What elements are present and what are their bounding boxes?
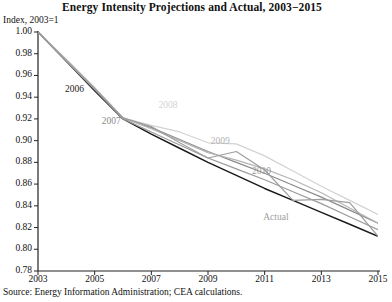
x-tick-label: 2009 (192, 274, 224, 284)
series-label-2010: 2010 (252, 166, 271, 176)
x-tick-label: 2011 (249, 274, 281, 284)
x-tick-label: 2003 (22, 274, 54, 284)
y-tick-label: 1.00 (0, 26, 32, 36)
y-tick-label: 0.88 (0, 156, 32, 166)
series-label-2009: 2009 (211, 136, 230, 146)
series-label-actual: Actual (263, 212, 288, 222)
series-label-2008: 2008 (158, 100, 177, 110)
x-tick-label: 2005 (79, 274, 111, 284)
chart-title: Energy Intensity Projections and Actual,… (0, 0, 384, 14)
y-tick-label: 0.92 (0, 113, 32, 123)
source-note: Source: Energy Information Administratio… (3, 287, 242, 297)
y-axis-label: Index, 2003=1 (3, 15, 59, 25)
x-tick-label: 2013 (305, 274, 337, 284)
series-label-2006: 2006 (65, 84, 84, 94)
y-tick-label: 0.86 (0, 178, 32, 188)
series-line-2007 (38, 32, 378, 223)
series-line-2008 (38, 32, 378, 215)
y-tick-label: 0.80 (0, 243, 32, 253)
y-tick-label: 0.94 (0, 91, 32, 101)
y-tick-label: 0.84 (0, 200, 32, 210)
x-tick-label: 2015 (362, 274, 392, 284)
y-tick-label: 0.98 (0, 48, 32, 58)
series-label-2007: 2007 (102, 116, 121, 126)
series-lines (38, 32, 378, 271)
x-tick-label: 2007 (135, 274, 167, 284)
y-tick-label: 0.90 (0, 135, 32, 145)
y-tick-label: 0.96 (0, 69, 32, 79)
series-line-2009 (38, 32, 378, 223)
plot-area (38, 32, 378, 271)
y-tick-label: 0.82 (0, 222, 32, 232)
